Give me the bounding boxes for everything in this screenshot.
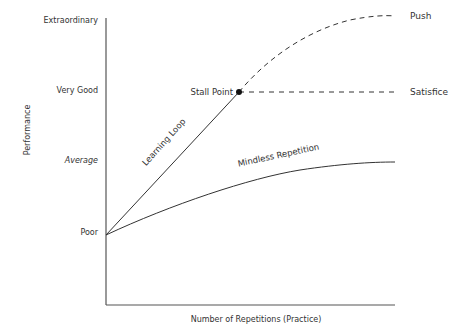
- learning-loop-line: [106, 92, 239, 235]
- push-label: Push: [410, 11, 431, 21]
- tick-extraordinary: Extraordinary: [44, 16, 99, 25]
- satisfice-label: Satisfice: [410, 87, 449, 97]
- stall-point-marker: [236, 89, 242, 95]
- mindless-repetition-curve: [106, 162, 395, 235]
- stall-point-label: Stall Point: [191, 87, 234, 97]
- mindless-repetition-label: Mindless Repetition: [237, 142, 320, 169]
- tick-poor: Poor: [80, 228, 98, 237]
- tick-very-good: Very Good: [57, 86, 98, 95]
- x-axis-title: Number of Repetitions (Practice): [191, 315, 322, 324]
- push-curve: [239, 16, 395, 92]
- y-axis-title: Performance: [23, 105, 32, 156]
- performance-chart: Extraordinary Very Good Average Poor Per…: [0, 0, 469, 335]
- tick-average: Average: [64, 156, 98, 165]
- learning-loop-label: Learning Loop: [140, 116, 188, 167]
